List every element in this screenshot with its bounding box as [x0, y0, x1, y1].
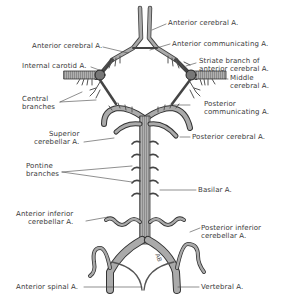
label-basilar: Basilar A.	[198, 186, 232, 194]
arterial-diagram: Anterior cerebral A. Anterior cerebral A…	[0, 0, 292, 307]
label-posterior-communicating: Posterior communicating A.	[204, 100, 269, 116]
label-central-branches: Central branches	[22, 95, 55, 111]
label-striate-branch: Striate branch of anterior cerebral A.	[199, 57, 269, 73]
label-internal-carotid: Internal carotid A.	[22, 62, 87, 70]
label-vertebral: Vertebral A.	[201, 283, 243, 291]
label-pontine-branches: Pontine branches	[26, 162, 59, 178]
label-posterior-cerebral: Posterior cerebral A.	[192, 133, 265, 141]
label-middle-cerebral: Middle cerebral A.	[230, 74, 269, 90]
label-anterior-inferior-cerebellar: Anterior inferior cerebellar A.	[16, 210, 73, 226]
label-anterior-cerebral-left: Anterior cerebral A.	[32, 42, 102, 50]
label-anterior-communicating: Anterior communicating A.	[172, 40, 268, 48]
label-anterior-cerebral-top: Anterior cerebral A.	[168, 19, 238, 27]
label-anterior-spinal: Anterior spinal A.	[16, 283, 78, 291]
label-superior-cerebellar: Superior cerebellar A.	[34, 130, 79, 146]
label-posterior-inferior-cerebellar: Posterior inferior cerebellar A.	[201, 224, 261, 240]
